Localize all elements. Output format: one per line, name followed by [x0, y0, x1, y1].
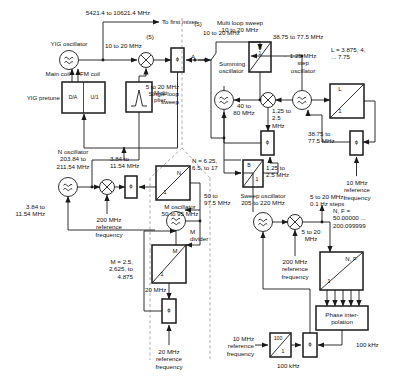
label-m-divider-den: 1: [155, 271, 169, 278]
label-l-divider-num: L: [333, 86, 347, 93]
label-single-loop-sweep: 5 to 20 MHz Single loop sweep: [121, 83, 179, 105]
label-step-oscillator: 1.25 MHz step oscillator: [280, 52, 326, 74]
label-m-values: M = 2.5, 2.625, to 4.875: [85, 258, 133, 280]
label-100khz-bottom: 100 kHz: [277, 362, 317, 369]
label-n-oscillator: N oscillator 203.84 to 211.54 MHz: [36, 148, 110, 170]
label-main-coil: Main coil: [20, 70, 70, 77]
label-20mhz-mid: 20 MHz: [145, 286, 175, 293]
label-five-paren-a: (5): [142, 33, 158, 40]
phase-detector-glyph-2: ϕ: [350, 139, 363, 146]
label-yig-pretune: YIG pretune: [8, 94, 60, 101]
label-hundred-divider-num: 100: [270, 335, 286, 341]
label-200mhz-reference-left: 200 MHz reference frequency: [82, 216, 136, 238]
label-nf-values: N, F = 50.00000 ... 200.099999: [333, 207, 398, 229]
label-n-osc-output: 3.84 to 11.54 MHz: [110, 155, 156, 170]
label-l-divider-den: 1: [333, 108, 347, 115]
label-200mhz-reference-mid: 200 MHz reference frequency: [268, 258, 322, 280]
label-u1-converter: U/1: [85, 94, 104, 100]
label-hundred-divider-den: 1: [277, 348, 289, 354]
phase-detector-glyph-4: ϕ: [125, 183, 137, 190]
label-l-values: L = 3.875, 4, ... 7.75: [331, 46, 393, 61]
phase-detector-glyph-3: ϕ: [261, 139, 274, 146]
label-m-divider-num: M: [168, 248, 182, 255]
label-n-values: N = 6.25, 6.5, to 17: [192, 157, 240, 172]
phase-detector-glyph-5: ϕ: [162, 307, 176, 314]
label-1p25-to-2p5-mhz-b: 1.25 to 2.5 MHz: [266, 164, 306, 179]
label-10mhz-reference-bottom: 10 MHz reference frequency: [198, 335, 254, 357]
sweep-oscillator-symbol: [254, 213, 273, 232]
label-100khz-right: 100 kHz: [356, 341, 396, 348]
label-40-to-80-mhz: 40 to 80 MHz: [227, 102, 261, 117]
label-38p75-to-77p5-mhz: 38.75 to 77.5 MHz: [308, 130, 350, 145]
label-nf-divider-den: 1: [322, 278, 336, 285]
label-multi-loop-sweep: Multi loop sweep 10 to 20 MHz: [198, 19, 282, 34]
label-n-divider-num: N: [172, 170, 186, 177]
label-10-to-20-mhz-a: 10 to 20 MHz: [105, 42, 175, 49]
label-n-divider-den: 1: [158, 189, 172, 196]
label-fm-coil: FM coil: [80, 70, 120, 77]
label-da-converter: D/A: [63, 94, 83, 100]
label-n-osc-feedback: 3.84 to 11.54 MHz: [1, 203, 45, 218]
block-diagram-canvas: 5421.4 to 10621.4 MHz To first mixer YIG…: [0, 0, 398, 383]
label-summing-oscillator: Summing oscillator: [219, 60, 263, 75]
label-m-divider-caption: M divider: [190, 228, 220, 243]
label-step-osc-output-frequency: 38.75 to 77.5 MHz: [252, 33, 344, 40]
label-1p25-to-2p5-mhz-a: 1.25 to 2.5 MHz: [272, 107, 300, 129]
label-sweep-oscillator: Sweep oscillator 205 to 220 MHz: [218, 192, 308, 207]
label-nf-divider-num: N, F: [341, 256, 361, 263]
label-5-to-20mhz: 5 to 20 MHz: [294, 228, 328, 243]
n-oscillator-symbol: [59, 178, 78, 197]
label-5-to-20mhz-steps: 5 to 20 MHz, 0.1 Hz steps: [310, 193, 374, 208]
label-yig-oscillator: YIG oscillator: [36, 40, 102, 47]
phase-detector-glyph-1: ϕ: [171, 56, 184, 63]
label-point-a: A: [188, 53, 198, 60]
label-20mhz-reference-bottom: 20 MHz reference frequency: [142, 348, 196, 370]
label-a-divider-num: A 1: [250, 44, 270, 56]
label-b-divider-num: B: [244, 162, 254, 168]
label-b-divider-den: 1: [252, 176, 262, 182]
yig-oscillator-symbol: [60, 51, 79, 70]
label-yig-output-frequency: 5421.4 to 10621.4 MHz: [64, 9, 172, 16]
phase-detector-glyph-6: ϕ: [303, 341, 317, 348]
label-phase-interpolation: Phase inter- polation: [318, 311, 366, 326]
